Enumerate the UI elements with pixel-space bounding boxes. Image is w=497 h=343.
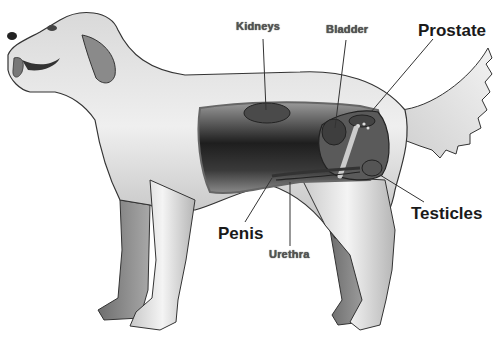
label-prostate: Prostate xyxy=(418,22,486,39)
tail xyxy=(400,48,492,158)
nose xyxy=(7,32,17,40)
bladder xyxy=(322,119,346,145)
label-bladder: Bladder xyxy=(326,24,368,35)
label-urethra: Urethra xyxy=(269,249,310,260)
testicles xyxy=(362,160,382,176)
kidney xyxy=(244,103,290,123)
label-penis: Penis xyxy=(218,225,263,242)
eye xyxy=(47,25,57,31)
prostate-leader xyxy=(371,39,433,112)
prostate xyxy=(349,115,375,127)
label-testicles: Testicles xyxy=(411,205,483,222)
label-kidneys: Kidneys xyxy=(236,21,280,32)
dog-anatomy-diagram: Kidneys Bladder Prostate Testicles Penis… xyxy=(0,0,497,343)
dog-illustration xyxy=(0,0,497,343)
